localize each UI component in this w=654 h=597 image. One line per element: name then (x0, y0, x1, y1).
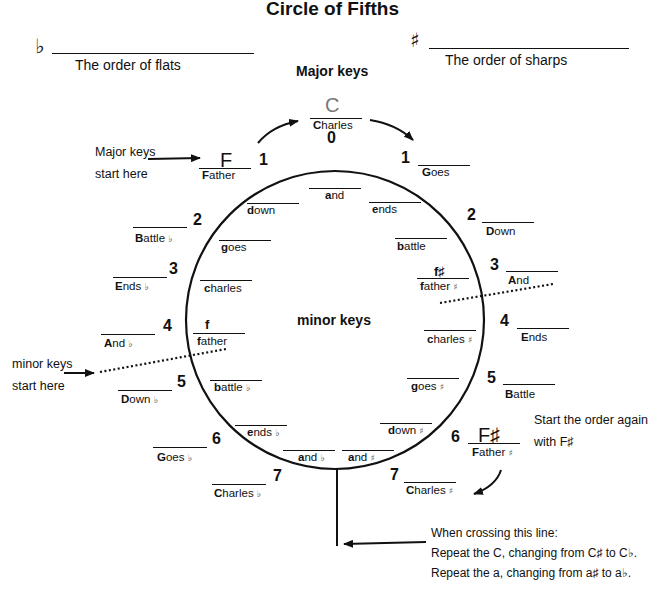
sharp-icon: ♯ (370, 453, 374, 463)
order-of-flats-blank[interactable] (52, 53, 254, 54)
major-flat-1-word: Father (202, 169, 235, 181)
major-flat-2-word: Battle ♭ (135, 232, 173, 244)
note-line: start here (12, 375, 72, 397)
minor-flat-6-word: ends ♭ (247, 426, 279, 438)
diagram-graphics (0, 0, 654, 597)
minor-flat-3-blank[interactable] (200, 280, 252, 281)
minor-sharp-5-blank[interactable] (407, 378, 459, 379)
sharp-icon: ♯ (508, 448, 512, 458)
minor-top-word: and (325, 189, 344, 201)
flat-icon: ♭ (320, 453, 324, 463)
note-line: start here (95, 163, 155, 185)
crossing-note: When crossing this line: Repeat the C, c… (431, 523, 637, 583)
major-start-arrow (148, 158, 200, 159)
minor-flat-7-word: and ♭ (298, 451, 325, 463)
arrow-fsharp-to-csharp (474, 470, 501, 494)
major-sharp-5-blank[interactable] (503, 384, 555, 385)
order-of-sharps-blank[interactable] (429, 48, 629, 49)
note-line: Repeat the C, changing from C♯ to C♭. (431, 543, 637, 563)
major-flat-1-count: 1 (259, 151, 268, 169)
flat-icon: ♭ (128, 339, 132, 349)
crossing-arrow (344, 542, 426, 544)
note-line: Repeat the a, changing from a♯ to a♭. (431, 563, 637, 583)
flat-icon: ♭ (168, 234, 172, 244)
note-line: When crossing this line: (431, 523, 637, 543)
minor-flat-5-word: battle ♭ (214, 381, 250, 393)
minor-sharp-3-word: father ♯ (420, 280, 458, 292)
key-c-count: 0 (327, 129, 336, 147)
major-sharp-6-blank[interactable] (468, 443, 520, 444)
minor-flat-4-blank[interactable] (193, 333, 245, 334)
major-flat-6-word: Goes ♭ (157, 451, 192, 463)
major-sharp-2-count: 2 (467, 206, 476, 224)
arrow-f-to-c (258, 121, 298, 143)
major-start-note: Major keys start here (95, 141, 155, 185)
minor-sharp-2-blank[interactable] (395, 238, 447, 239)
major-flat-4-blank[interactable] (101, 334, 155, 335)
major-sharp-6-count: 6 (451, 428, 460, 446)
key-c-letter: C (325, 94, 339, 117)
arrow-c-to-g (370, 120, 413, 140)
major-keys-heading: Major keys (296, 63, 368, 79)
major-sharp-7-count: 7 (390, 466, 399, 484)
major-sharp-4-blank[interactable] (517, 328, 569, 329)
major-flat-3-count: 3 (169, 260, 178, 278)
major-flat-5-blank[interactable] (118, 390, 172, 391)
minor-sharp-2-word: battle (397, 240, 426, 252)
flat-icon: ♭ (188, 453, 192, 463)
major-flat-2-blank[interactable] (133, 227, 187, 228)
restart-note: Start the order again with F♯ (534, 409, 648, 453)
major-sharp-2-blank[interactable] (482, 222, 534, 223)
major-sharp-3-word: And (508, 274, 529, 286)
flat-icon: ♭ (257, 489, 261, 499)
major-flat-4-count: 4 (163, 317, 172, 335)
major-flat-4-word: And ♭ (104, 337, 133, 349)
flat-icon: ♭ (275, 428, 279, 438)
minor-start-dotted-line (100, 349, 226, 372)
sharp-icon: ♯ (449, 486, 453, 496)
order-of-sharps-label: The order of sharps (445, 52, 567, 68)
major-flat-6-blank[interactable] (153, 447, 207, 448)
major-sharp-1-count: 1 (401, 149, 410, 167)
major-flat-7-word: Charles ♭ (214, 487, 261, 499)
note-line: with F♯ (534, 431, 648, 453)
sharp-icon: ♯ (468, 335, 472, 345)
major-flat-7-blank[interactable] (212, 484, 266, 485)
major-sharp-2-word: Down (486, 225, 515, 237)
major-sharp-1-word: Goes (422, 166, 450, 178)
flat-symbol-icon: ♭ (35, 34, 44, 58)
minor-sharp-3-blank[interactable] (417, 278, 469, 279)
minor-flat-2-word: goes (221, 241, 247, 253)
minor-flat-4-word: father (197, 335, 227, 347)
minor-sharp-7-word: and ♯ (348, 451, 375, 463)
sharp-icon: ♯ (440, 382, 444, 392)
sharp-icon: ♯ (453, 282, 457, 292)
page-title: Circle of Fifths (266, 0, 399, 20)
major-flat-3-word: Ends ♭ (115, 280, 149, 292)
minor-sharp-6-word: down ♯ (388, 424, 424, 436)
major-sharp-6-word: Father ♯ (472, 446, 513, 458)
minor-sharp-1-word: ends (372, 203, 397, 215)
minor-sharp-4-blank[interactable] (424, 330, 476, 331)
major-sharp-7-blank[interactable] (404, 482, 456, 483)
flat-icon: ♭ (246, 383, 250, 393)
major-flat-6-count: 6 (212, 430, 221, 448)
major-sharp-4-count: 4 (500, 312, 509, 330)
major-flat-7-count: 7 (273, 467, 282, 485)
minor-flat-3-word: charles (204, 282, 242, 294)
minor-keys-heading: minor keys (297, 312, 371, 328)
note-line: minor keys (12, 353, 72, 375)
minor-start-note: minor keys start here (12, 353, 72, 397)
flat-icon: ♭ (144, 282, 148, 292)
major-sharp-3-count: 3 (490, 256, 499, 274)
note-line: Start the order again (534, 409, 648, 431)
minor-flat-1-word: down (247, 204, 275, 216)
major-flat-5-word: Down ♭ (121, 393, 158, 405)
major-flat-3-blank[interactable] (113, 277, 167, 278)
minor-sharp-5-word: goes ♯ (411, 380, 444, 392)
major-flat-2-count: 2 (193, 211, 202, 229)
sharp-symbol-icon: ♯ (410, 28, 420, 52)
major-sharp-5-count: 5 (487, 369, 496, 387)
major-sharp-5-word: Battle (505, 388, 535, 400)
major-sharp-3-blank[interactable] (506, 271, 558, 272)
